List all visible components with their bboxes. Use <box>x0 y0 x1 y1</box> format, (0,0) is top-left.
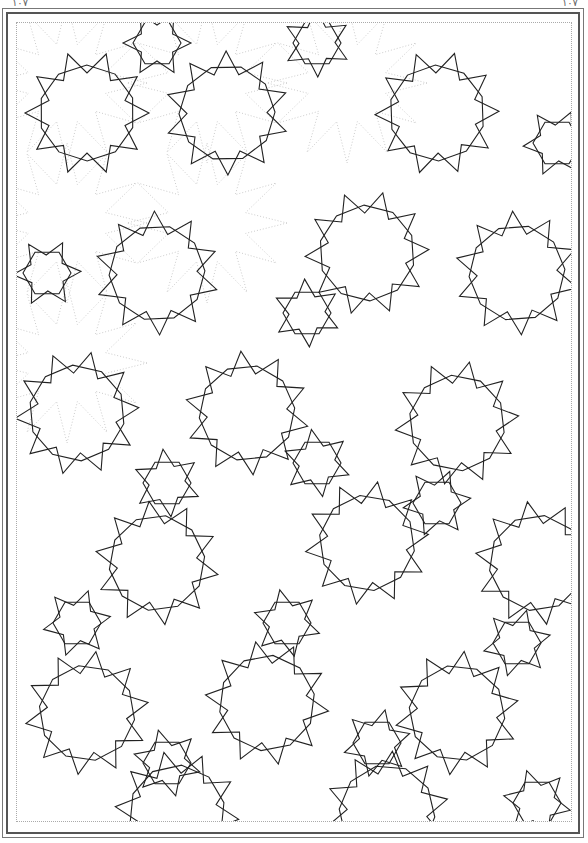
pattern-plate <box>16 22 572 822</box>
star-pattern <box>17 23 572 822</box>
page-number-right: ۱۰۷ <box>562 0 578 8</box>
page-number-left: ۱۰۷ <box>12 0 28 8</box>
